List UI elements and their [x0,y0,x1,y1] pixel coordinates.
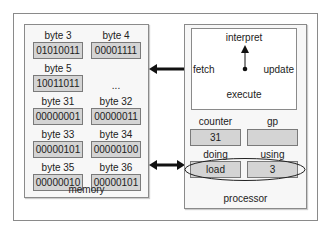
byte-label: byte 5 [33,63,83,75]
gp-label: gp [247,116,298,128]
double-arrow-icon [149,160,185,170]
byte-label: byte 31 [33,96,83,108]
byte-label: byte 4 [91,30,141,42]
counter-register: 31 [190,129,241,146]
byte-cell: 10011011 [33,75,83,92]
byte-cell: 00000001 [33,108,83,125]
cycle-execute: execute [191,89,297,101]
byte-label: byte 36 [91,162,141,174]
byte-label: byte 35 [33,162,83,174]
gp-register [247,129,298,146]
ellipsis: ... [91,80,141,92]
cycle-pointer-icon [238,44,252,74]
cycle-fetch: fetch [193,64,223,76]
byte-label: byte 33 [33,129,83,141]
byte-label: byte 32 [91,96,141,108]
instruction-ellipse [183,157,307,183]
cycle-interpret: interpret [191,32,297,44]
byte-cell: 01010011 [33,42,83,59]
counter-label: counter [190,116,241,128]
cycle-update: update [258,64,294,76]
memory-title: memory [24,184,149,196]
processor-title: processor [184,193,307,205]
left-arrow-icon [149,64,184,74]
byte-cell: 00000101 [33,141,83,158]
byte-cell: 00000011 [91,108,141,125]
byte-label: byte 34 [91,129,141,141]
byte-cell: 00000100 [91,141,141,158]
arrows [148,60,186,175]
byte-cell: 00001111 [91,42,141,59]
byte-label: byte 3 [33,30,83,42]
